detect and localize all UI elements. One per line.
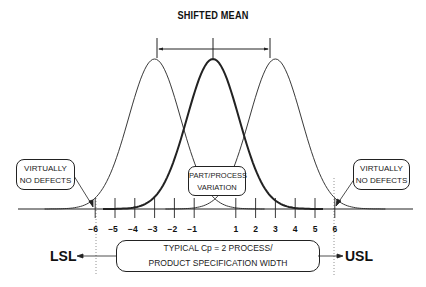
tick-label: −2 (162, 224, 182, 234)
tick-label: 4 (285, 224, 305, 234)
callout-left-line1: VIRTUALLY (17, 163, 74, 175)
spec-width-box: TYPICAL Cp = 2 PROCESS/ PRODUCT SPECIFIC… (116, 240, 320, 272)
callout-left-line2: NO DEFECTS (17, 175, 74, 187)
tick-label: −3 (143, 224, 163, 234)
tick-label: 3 (265, 224, 285, 234)
spec-box-line2: PRODUCT SPECIFICATION WIDTH (117, 256, 319, 271)
callout-right-no-defects: VIRTUALLY NO DEFECTS (353, 159, 410, 190)
tick-label: −1 (182, 224, 202, 234)
chart-title: SHIFTED MEAN (17, 10, 409, 21)
tick-label: 2 (246, 224, 266, 234)
callout-center-variation: PART/PROCESS VARIATION (188, 166, 246, 196)
callout-right-line1: VIRTUALLY (354, 163, 409, 175)
lsl-label: LSL (50, 248, 76, 264)
spec-box-line1: TYPICAL Cp = 2 PROCESS/ (117, 241, 319, 256)
tick-label: 5 (305, 224, 325, 234)
callout-right-line2: NO DEFECTS (354, 175, 409, 187)
tick-label: −5 (103, 224, 123, 234)
usl-label: USL (345, 248, 373, 264)
shifted-mean-bracket (157, 38, 270, 58)
tick-label: −6 (83, 224, 103, 234)
callout-center-line2: VARIATION (189, 182, 245, 194)
tick-label: −4 (123, 224, 143, 234)
tick-label: 6 (325, 224, 345, 234)
callout-left-no-defects: VIRTUALLY NO DEFECTS (16, 159, 75, 190)
tick-label: 1 (226, 224, 246, 234)
callout-center-line1: PART/PROCESS (189, 170, 245, 182)
